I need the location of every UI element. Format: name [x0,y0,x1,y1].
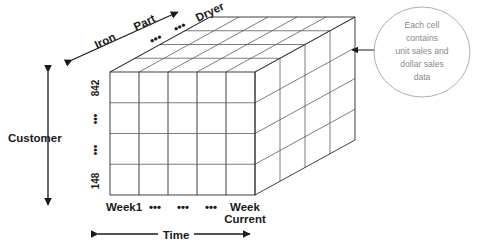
customer-tick-148: 148 [90,172,101,189]
callout-line-4: dollar sales [400,59,443,69]
callout-line-1: Each cell [405,20,440,30]
callout-line-2: contains [406,33,438,43]
callout: Each cell contains unit sales and dollar… [352,7,470,97]
customer-tick-842: 842 [90,79,101,96]
time-tick-week-current-line2: Current [224,213,266,225]
customer-axis: Customer 842 ••• ••• 148 [8,72,101,205]
cube [110,17,355,195]
time-axis: Week1 ••• ••• ••• Week Current Time [98,201,266,241]
data-cube-diagram: Iron Part ••• ••• Dryer Customer 842 •••… [0,0,477,249]
callout-line-5: data [414,72,431,82]
callout-line-3: unit sales and [395,46,448,56]
part-tick-iron: Iron [93,30,118,50]
time-tick-week1: Week1 [106,201,143,213]
customer-tick-dots-1: ••• [90,113,101,124]
time-tick-week-current-line1: Week [230,201,260,213]
customer-tick-dots-2: ••• [90,144,101,155]
time-axis-label: Time [163,229,190,241]
time-tick-dots-1: ••• [149,201,161,213]
time-tick-dots-2: ••• [177,201,189,213]
part-axis-label: Part [132,12,158,33]
time-tick-dots-3: ••• [205,201,217,213]
customer-axis-label: Customer [8,132,62,144]
